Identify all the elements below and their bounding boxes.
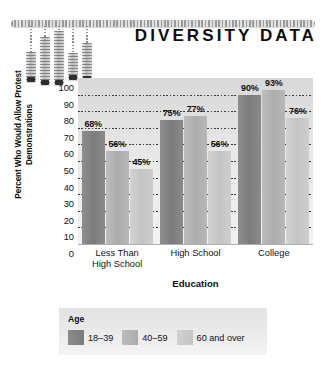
bar[interactable]: 56% xyxy=(106,151,129,244)
x-axis-title: Education xyxy=(78,278,313,289)
bar-value-label: 93% xyxy=(265,78,282,88)
diversity-data-figure: DIVERSITY DATA Percent Who Would Allow P… xyxy=(0,0,329,383)
legend-swatch xyxy=(122,330,138,345)
y-axis-tick-label: 90 xyxy=(34,100,74,109)
y-axis-tick-label: 40 xyxy=(34,183,74,192)
ornament-string-icon xyxy=(72,26,74,53)
bar-value-label: 90% xyxy=(241,83,258,93)
bar-groups: 68%56%45%75%77%56%90%93%76% xyxy=(78,78,313,244)
header-band: DIVERSITY DATA xyxy=(0,0,329,68)
y-axis-tick-label: 20 xyxy=(34,216,74,225)
bar-chart: Percent Who Would Allow Protest Demonstr… xyxy=(0,68,329,300)
ornament-string-icon xyxy=(44,26,46,37)
bar[interactable]: 76% xyxy=(286,118,309,244)
y-axis-tick-label: 30 xyxy=(34,200,74,209)
bar-value-label: 68% xyxy=(84,119,101,129)
y-axis-tick-label: 80 xyxy=(34,117,74,126)
x-axis-category-labels: Less ThanHigh SchoolHigh SchoolCollege xyxy=(78,248,313,270)
bar-group: 90%93%76% xyxy=(235,78,313,244)
x-axis-line xyxy=(78,244,313,245)
x-axis-category-label: High School xyxy=(156,248,234,270)
bar-set: 90%93%76% xyxy=(235,78,313,244)
legend-item[interactable]: 60 and over xyxy=(177,330,245,345)
ornament-string-icon xyxy=(86,26,88,43)
legend-swatch xyxy=(177,330,193,345)
bar[interactable]: 68% xyxy=(82,131,105,244)
bar-value-label: 76% xyxy=(289,106,306,116)
legend-label: 40–59 xyxy=(142,333,167,343)
bar-value-label: 45% xyxy=(132,157,149,167)
legend-title: Age xyxy=(68,314,84,324)
x-axis-category-label: Less ThanHigh School xyxy=(78,248,156,270)
bar-value-label: 56% xyxy=(108,139,125,149)
legend-item[interactable]: 40–59 xyxy=(122,330,167,345)
bar-value-label: 56% xyxy=(211,139,228,149)
ornament-string-icon xyxy=(30,26,32,52)
bar[interactable]: 56% xyxy=(208,151,231,244)
bar[interactable]: 93% xyxy=(262,90,285,244)
page-title: DIVERSITY DATA xyxy=(135,26,317,46)
legend-items: 18–3940–5960 and over xyxy=(68,330,264,345)
legend: Age 18–3940–5960 and over xyxy=(59,308,267,355)
y-axis-title: Percent Who Would Allow Protest Demonstr… xyxy=(14,59,35,211)
bar-set: 75%77%56% xyxy=(156,78,234,244)
y-axis-tick-label: 70 xyxy=(34,133,74,142)
bar[interactable]: 75% xyxy=(160,120,183,245)
x-axis-category-label: College xyxy=(235,248,313,270)
y-axis-tick-label: 50 xyxy=(34,167,74,176)
bar-set: 68%56%45% xyxy=(78,78,156,244)
legend-label: 18–39 xyxy=(88,333,113,343)
y-axis-tick-labels: 1009080706050403020100 xyxy=(34,78,74,244)
y-axis-tick-label: 0 xyxy=(34,250,74,259)
legend-item[interactable]: 18–39 xyxy=(68,330,113,345)
y-axis-tick-label: 10 xyxy=(34,233,74,242)
bar-group: 75%77%56% xyxy=(156,78,234,244)
plot-area: 68%56%45%75%77%56%90%93%76% xyxy=(78,78,313,244)
bar-value-label: 75% xyxy=(163,108,180,118)
bar[interactable]: 45% xyxy=(130,169,153,244)
bar-group: 68%56%45% xyxy=(78,78,156,244)
y-axis-tick-label: 100 xyxy=(34,84,74,93)
bar-value-label: 77% xyxy=(187,104,204,114)
legend-swatch xyxy=(68,330,84,345)
legend-label: 60 and over xyxy=(197,333,245,343)
bar[interactable]: 90% xyxy=(238,95,261,244)
bar[interactable]: 77% xyxy=(184,116,207,244)
y-axis-tick-label: 60 xyxy=(34,150,74,159)
